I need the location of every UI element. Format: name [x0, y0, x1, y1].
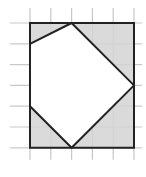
- grid-diagram: [0, 0, 146, 177]
